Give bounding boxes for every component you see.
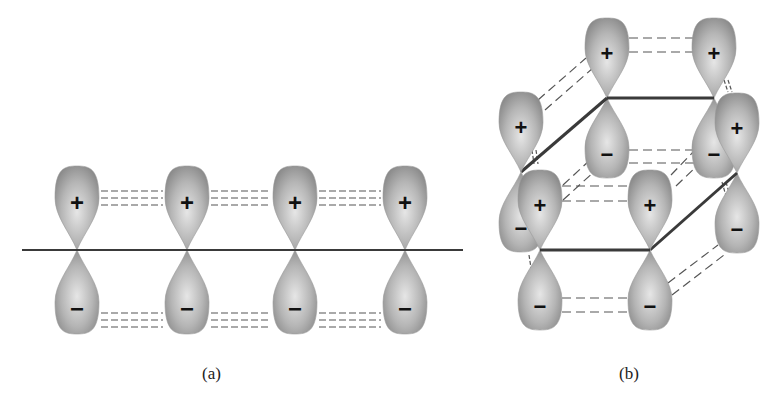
overlap-dashed-line [563,160,590,185]
plus-sign-icon: + [398,189,412,216]
overlap-dashed-line [529,255,531,268]
plus-sign-icon: + [644,193,657,218]
overlap-dashed-line [672,255,724,295]
minus-sign-icon: − [731,217,744,242]
plus-sign-icon: + [70,189,84,216]
panel-a-linear-p-orbitals: +−+−+−+− [22,166,463,334]
caption-b: (b) [619,364,639,384]
overlap-dashed-line [728,80,732,92]
plus-sign-icon: + [731,116,744,141]
overlap-dashed-line [668,245,718,283]
plus-sign-icon: + [515,115,528,140]
minus-sign-icon: − [644,294,657,319]
minus-sign-icon: − [288,295,302,322]
minus-sign-icon: − [180,295,194,322]
overlap-dashed-line [538,58,586,100]
overlap-dashed-line [724,80,728,92]
plus-sign-icon: + [534,193,547,218]
minus-sign-icon: − [534,294,547,319]
overlap-dashed-line [563,170,596,200]
caption-a: (a) [202,364,221,384]
plus-sign-icon: + [601,41,614,66]
minus-sign-icon: − [601,142,614,167]
minus-sign-icon: − [398,295,412,322]
plus-sign-icon: + [708,41,721,66]
minus-sign-icon: − [70,295,84,322]
minus-sign-icon: − [708,142,721,167]
plus-sign-icon: + [288,189,302,216]
overlap-dashed-line [545,68,593,110]
plus-sign-icon: + [180,189,194,216]
pi-orbital-diagram: +−+−+−+− +−+−+−+−+−+− [0,0,780,401]
panel-b-hexagonal-ring-p-orbitals: +−+−+−+−+−+− [499,18,759,330]
